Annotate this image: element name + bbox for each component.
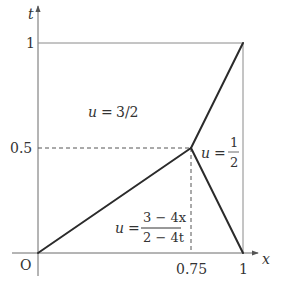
phase-diagram: t x O 1 0.5 0.75 1 u = 3/2 u = 1 2 u = 3…	[0, 0, 282, 288]
svg-text:3/2: 3/2	[116, 104, 139, 120]
region-label-right: u = 1 2	[201, 135, 239, 170]
tick-x-0.75: 0.75	[176, 261, 207, 277]
svg-text:u: u	[201, 145, 210, 161]
svg-text:1: 1	[230, 135, 238, 150]
t-axis-label: t	[28, 6, 34, 22]
svg-text:=: =	[101, 104, 113, 120]
svg-text:u: u	[88, 104, 97, 120]
svg-text:=: =	[214, 145, 226, 161]
svg-text:u: u	[115, 220, 124, 236]
boundary-vertex-to-top-corner	[191, 43, 243, 148]
svg-text:3 − 4x: 3 − 4x	[143, 210, 187, 225]
tick-t-0.5: 0.5	[10, 140, 32, 156]
svg-text:2: 2	[230, 155, 238, 170]
region-label-lower: u = 3 − 4x 2 − 4t	[115, 210, 187, 245]
svg-text:=: =	[128, 220, 140, 236]
tick-x-1: 1	[239, 261, 248, 277]
x-axis-label: x	[262, 251, 270, 267]
svg-text:2 − 4t: 2 − 4t	[143, 230, 185, 245]
tick-t-1: 1	[26, 35, 35, 51]
region-label-upper: u = 3/2	[88, 104, 139, 120]
origin-label: O	[20, 257, 31, 273]
